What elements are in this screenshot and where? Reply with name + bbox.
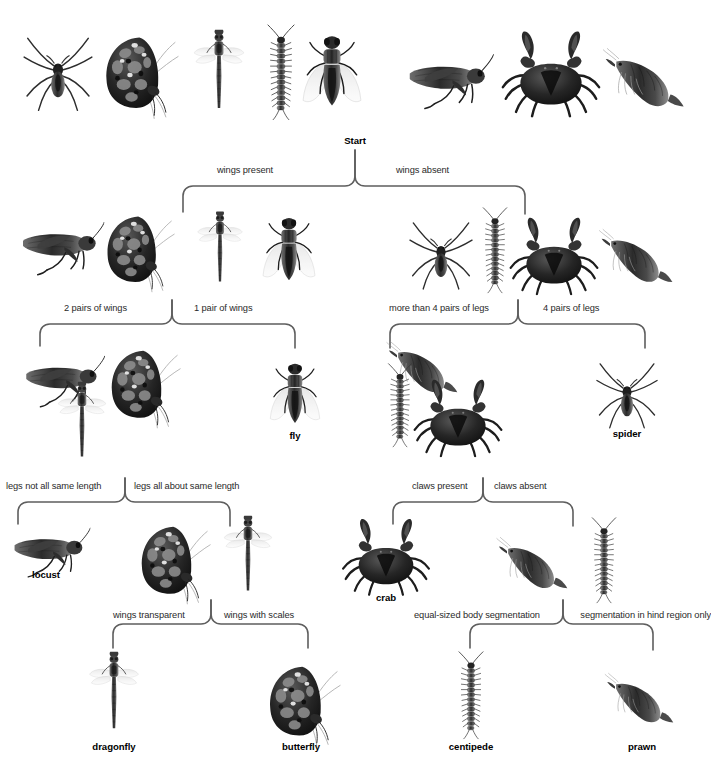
criterion-claws-absent: claws absent: [494, 481, 547, 492]
specimen-prawn-level3: [492, 536, 580, 594]
specimen-spider-level0: [22, 24, 94, 116]
specimen-butterfly-level0: [94, 26, 180, 121]
specimen-butterfly-level2: [100, 340, 182, 430]
criterion-1-pair-of-wings: 1 pair of wings: [194, 303, 252, 314]
specimen-crab-level2: [412, 378, 504, 458]
specimen-prawn-level4: [602, 672, 684, 728]
criterion-equal-sized-body-segmentation: equal-sized body segmentation: [414, 610, 540, 621]
terminal-label-fly: fly: [265, 430, 325, 441]
terminal-label-crab: crab: [356, 592, 416, 603]
specimen-spider-level1: [408, 210, 474, 294]
specimen-dragonfly-level3: [222, 512, 274, 604]
terminal-label-centipede: centipede: [440, 741, 502, 752]
criterion-wings-absent: wings absent: [396, 165, 449, 176]
specimen-crab-level0: [500, 28, 602, 120]
terminal-label-locust: locust: [16, 569, 76, 580]
specimen-dragonfly-level0: [188, 26, 250, 122]
criterion-more-than-4-pairs-of-legs: more than 4 pairs of legs: [389, 303, 489, 314]
terminal-label-prawn: prawn: [612, 741, 672, 752]
criterion-claws-present: claws present: [412, 481, 468, 492]
specimen-crab-level1: [508, 216, 600, 296]
criterion-wings-present: wings present: [217, 165, 273, 176]
criterion-legs-all-about-same-length: legs all about same length: [134, 481, 239, 492]
specimen-dragonfly-level1: [192, 208, 248, 294]
terminal-label-spider: spider: [597, 428, 657, 439]
specimen-locust-level1: [14, 218, 108, 278]
criterion-2-pairs-of-wings: 2 pairs of wings: [64, 303, 127, 314]
criterion-segmentation-in-hind-region-only: segmentation in hind region only: [571, 610, 711, 621]
specimen-spider-level2: [595, 352, 659, 432]
start-node-label: Start: [325, 135, 385, 146]
specimen-centipede-level4: [455, 650, 487, 740]
criterion-wings-transparent: wings transparent: [113, 610, 185, 621]
specimen-prawn-level1: [592, 228, 688, 288]
specimen-dragonfly-level4: [87, 648, 141, 742]
specimen-prawn-level0: [596, 47, 700, 113]
specimen-crab-level3: [340, 518, 432, 596]
specimen-centipede-level1: [478, 206, 512, 294]
specimen-butterfly-level3: [130, 516, 212, 606]
dichotomous-key-diagram: Start wings present wings absent 2 pairs…: [0, 0, 711, 764]
specimen-centipede-level3: [588, 516, 620, 604]
specimen-locust-level0: [400, 50, 498, 112]
terminal-label-butterfly: butterfly: [270, 741, 332, 752]
terminal-label-dragonfly: dragonfly: [84, 741, 144, 752]
specimen-fly-level2: [264, 356, 326, 436]
specimen-fly-level0: [298, 27, 366, 121]
criterion-4-pairs-of-legs: 4 pairs of legs: [543, 303, 599, 314]
specimen-fly-level1: [258, 210, 320, 294]
specimen-butterfly-level1: [96, 206, 176, 294]
specimen-dragonfly-level2: [56, 378, 108, 470]
criterion-wings-with-scales: wings with scales: [224, 610, 294, 621]
specimen-centipede-level0: [262, 23, 300, 121]
specimen-butterfly-level4: [258, 656, 342, 748]
criterion-legs-not-all-same-length: legs not all same length: [6, 481, 101, 492]
